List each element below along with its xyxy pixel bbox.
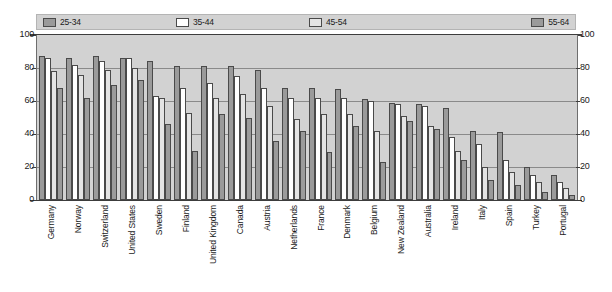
y-tick-mark bbox=[32, 101, 36, 102]
y-tick-label-left-100: 100 bbox=[8, 30, 34, 39]
bar-group bbox=[146, 35, 173, 200]
y-tick-label-right-0: 0 bbox=[580, 195, 606, 204]
x-label-cell: United Kingdom bbox=[198, 203, 225, 289]
x-axis-category-labels: GermanyNorwaySwitzerlandUnited StatesSwe… bbox=[36, 203, 576, 289]
y-tick-label-right-60: 60 bbox=[580, 96, 606, 105]
bar bbox=[192, 151, 198, 201]
bar-group bbox=[415, 35, 442, 200]
y-tick-label-left-20: 20 bbox=[8, 162, 34, 171]
x-axis-label: New Zealand bbox=[396, 205, 406, 254]
x-axis-label: Turkey bbox=[531, 205, 541, 230]
x-label-cell: Belgium bbox=[360, 203, 387, 289]
bar-group bbox=[361, 35, 388, 200]
legend-item-45-54: 45-54 bbox=[303, 17, 436, 27]
y-tick-mark bbox=[576, 167, 580, 168]
x-label-cell: Australia bbox=[414, 203, 441, 289]
legend-item-35-44: 35-44 bbox=[170, 17, 303, 27]
x-axis-label: Netherlands bbox=[289, 205, 299, 250]
plot-area bbox=[36, 35, 578, 200]
x-label-cell: Denmark bbox=[333, 203, 360, 289]
x-axis-label: Switzerland bbox=[100, 205, 110, 248]
y-tick-label-left-40: 40 bbox=[8, 129, 34, 138]
x-label-cell: Sweden bbox=[145, 203, 172, 289]
bar-group bbox=[173, 35, 200, 200]
legend-label-25-34: 25-34 bbox=[60, 17, 81, 27]
y-tick-label-right-40: 40 bbox=[580, 129, 606, 138]
x-axis-label: Ireland bbox=[450, 205, 460, 230]
bar-group bbox=[280, 35, 307, 200]
bar bbox=[165, 124, 171, 200]
bar bbox=[111, 85, 117, 201]
bar-group bbox=[92, 35, 119, 200]
bar bbox=[488, 180, 494, 200]
bar-group bbox=[469, 35, 496, 200]
x-axis-label: Norway bbox=[73, 205, 83, 233]
x-label-cell: Germany bbox=[37, 203, 64, 289]
x-axis-label: Portugal bbox=[558, 205, 568, 236]
x-label-cell: Finland bbox=[172, 203, 199, 289]
x-label-cell: Canada bbox=[225, 203, 252, 289]
bar bbox=[380, 162, 386, 200]
bar-group bbox=[442, 35, 469, 200]
x-axis-label: Belgium bbox=[369, 205, 379, 235]
x-axis-label: Canada bbox=[235, 205, 245, 234]
axis-bottom-rule bbox=[30, 200, 582, 201]
bar-group bbox=[226, 35, 253, 200]
bar-group bbox=[549, 35, 576, 200]
bar-group bbox=[307, 35, 334, 200]
y-tick-label-left-0: 0 bbox=[8, 195, 34, 204]
y-tick-label-right-100: 100 bbox=[580, 30, 606, 39]
bar bbox=[138, 80, 144, 200]
x-label-cell: New Zealand bbox=[387, 203, 414, 289]
y-tick-mark bbox=[32, 134, 36, 135]
bar-group bbox=[119, 35, 146, 200]
x-label-cell: Italy bbox=[468, 203, 495, 289]
legend-swatch-45-54 bbox=[309, 18, 322, 27]
y-tick-label-right-80: 80 bbox=[580, 63, 606, 72]
bar bbox=[273, 141, 279, 200]
legend-label-45-54: 45-54 bbox=[326, 17, 347, 27]
x-label-cell: Spain bbox=[494, 203, 521, 289]
x-axis-label: Denmark bbox=[342, 205, 352, 239]
bar-group bbox=[65, 35, 92, 200]
bar bbox=[57, 88, 63, 200]
bar-chart-figure: 25-34 35-44 45-54 55-64 100806040200 100… bbox=[0, 0, 612, 292]
bar bbox=[246, 118, 252, 201]
y-tick-mark bbox=[576, 101, 580, 102]
x-axis-label: France bbox=[316, 205, 326, 231]
y-tick-mark bbox=[576, 68, 580, 69]
x-label-cell: Portugal bbox=[548, 203, 575, 289]
x-label-cell: Ireland bbox=[441, 203, 468, 289]
x-axis-label: Germany bbox=[46, 205, 56, 239]
bar bbox=[353, 126, 359, 200]
bar bbox=[219, 114, 225, 200]
x-axis-label: Australia bbox=[423, 205, 433, 237]
legend-swatch-25-34 bbox=[43, 18, 56, 27]
bar-group bbox=[334, 35, 361, 200]
legend-label-35-44: 35-44 bbox=[193, 17, 214, 27]
y-tick-mark bbox=[576, 134, 580, 135]
y-tick-mark bbox=[32, 68, 36, 69]
bar-series-container bbox=[37, 35, 577, 200]
legend-swatch-35-44 bbox=[176, 18, 189, 27]
bar-group bbox=[522, 35, 549, 200]
y-tick-label-right-20: 20 bbox=[580, 162, 606, 171]
legend-label-55-64: 55-64 bbox=[548, 17, 569, 27]
y-tick-mark bbox=[32, 167, 36, 168]
x-axis-label: Finland bbox=[181, 205, 191, 232]
bar bbox=[434, 129, 440, 200]
x-label-cell: Switzerland bbox=[91, 203, 118, 289]
bar-group bbox=[38, 35, 65, 200]
y-tick-label-left-80: 80 bbox=[8, 63, 34, 72]
bar bbox=[515, 185, 521, 200]
x-axis-label: Austria bbox=[262, 205, 272, 231]
bar bbox=[84, 98, 90, 200]
legend-swatch-55-64 bbox=[531, 18, 544, 27]
x-axis-label: United States bbox=[127, 205, 137, 255]
bar bbox=[542, 192, 548, 200]
bar bbox=[327, 152, 333, 200]
y-tick-label-left-60: 60 bbox=[8, 96, 34, 105]
x-axis-label: Italy bbox=[477, 205, 487, 220]
chart-legend: 25-34 35-44 45-54 55-64 bbox=[36, 14, 576, 30]
bar-group bbox=[495, 35, 522, 200]
